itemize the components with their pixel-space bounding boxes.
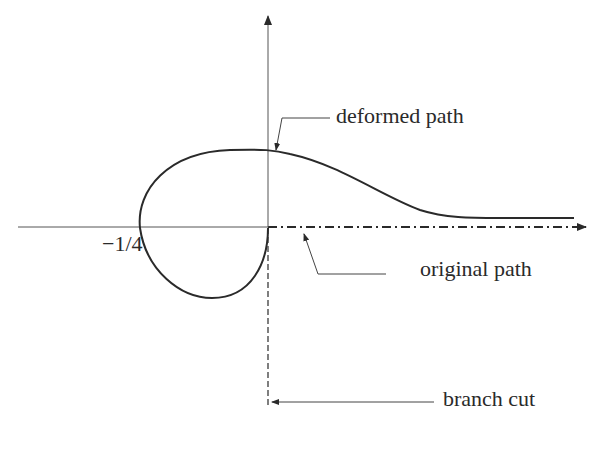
branch-point-label: −1/4	[102, 233, 143, 255]
original-path-label: original path	[420, 258, 532, 280]
deformed-path-label: deformed path	[336, 105, 464, 127]
original-path-leader	[304, 234, 386, 274]
branch-cut-label: branch cut	[443, 388, 535, 410]
contour-diagram	[0, 0, 595, 449]
deformed-path-leader	[276, 118, 330, 150]
